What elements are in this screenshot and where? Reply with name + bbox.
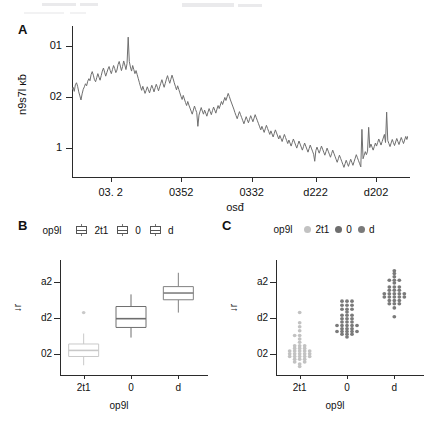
dotplot-point: [392, 289, 396, 293]
dotplot-point: [350, 317, 354, 321]
dotplot-point: [350, 307, 354, 311]
panel-c-legend: op9l 2t1 0 d: [216, 224, 432, 235]
dotplot-point: [345, 317, 349, 321]
dotplot-point: [340, 324, 344, 328]
panel-b-y-tick-label: 02: [24, 348, 52, 359]
dotplot-point: [345, 299, 349, 303]
dotplot-point: [350, 303, 354, 307]
dotplot-point: [298, 362, 302, 366]
dotplot-point: [293, 334, 297, 338]
panel-c-legend-label: 0: [346, 224, 352, 235]
panel-c-x-tick: [300, 375, 301, 379]
panel-b-x-tick-label: 2t1: [62, 382, 106, 393]
dotplot-point: [392, 299, 396, 303]
dotplot-point: [397, 289, 401, 293]
dotplot-point: [397, 285, 401, 289]
dotplot-point: [397, 278, 401, 282]
panel-b: B op9l 2t1 0 d: [0, 212, 216, 421]
panel-c-legend-item-d[interactable]: d: [358, 224, 375, 235]
panel-b-x-tick-label: 0: [109, 382, 153, 393]
panel-c-x-axis-title-text: op9l: [326, 400, 345, 411]
dotplot-point: [387, 299, 391, 303]
dotplot-point: [340, 307, 344, 311]
panel-b-legend-label: 0: [135, 225, 141, 236]
dotplot-point: [392, 295, 396, 299]
dotplot-point: [340, 314, 344, 318]
panel-c-legend-item-2t1[interactable]: 2t1: [304, 224, 329, 235]
dotplot-point: [387, 302, 391, 306]
panel-c-y-tick-label: d2: [240, 312, 268, 323]
dotplot-point: [355, 324, 359, 328]
boxplot-glyph-icon: [114, 224, 131, 236]
dotplot-point: [345, 320, 349, 324]
panel-a: A n9s7l ĸƀ 01021 03. 203520332d222d202 o…: [0, 14, 432, 210]
panel-a-line-path: [72, 37, 408, 167]
dotplot-point: [392, 302, 396, 306]
dotplot-point: [345, 307, 349, 311]
dot-glyph-icon: [335, 226, 342, 233]
dotplot-point: [392, 306, 396, 310]
scan-artifact: [42, 3, 76, 6]
dotplot-point: [293, 344, 297, 348]
dotplot-point: [387, 292, 391, 296]
panel-c-legend-item-0[interactable]: 0: [335, 224, 352, 235]
dotplot-point: [387, 295, 391, 299]
panel-b-x-axis: [60, 375, 208, 376]
panel-a-x-tick-label: 03. 2: [81, 186, 141, 198]
panel-a-y-axis-title: n9s7l ĸƀ: [16, 74, 28, 115]
panel-b-boxplots: [60, 264, 202, 372]
panel-c: C op9l 2t1 0 d ↓r a2d202 2t10d op9l: [216, 212, 432, 421]
panel-b-legend-item-d[interactable]: d: [147, 224, 174, 236]
panel-b-legend-label: 2t1: [94, 225, 108, 236]
panel-b-legend-title: op9l: [43, 225, 62, 236]
panel-b-x-axis-title-text: op9l: [110, 400, 129, 411]
dotplot-point: [392, 269, 396, 273]
panel-a-x-tick-label: d222: [286, 186, 346, 198]
dotplot-point: [340, 303, 344, 307]
dotplot-point: [350, 327, 354, 331]
boxplot-glyph-icon: [147, 224, 164, 236]
panel-b-y-tick-label: a2: [24, 276, 52, 287]
panel-a-y-tick-label: 02: [30, 90, 62, 102]
dotplot-point: [397, 292, 401, 296]
panel-c-y-tick-label: a2: [240, 276, 268, 287]
panel-a-y-tick-label: 01: [30, 39, 62, 51]
panel-b-x-tick-label: d: [156, 382, 200, 393]
dotplot-point: [298, 337, 302, 341]
dotplot-point: [350, 320, 354, 324]
dotplot-point: [350, 299, 354, 303]
panel-c-legend-label: d: [369, 224, 375, 235]
dotplot-point: [335, 324, 339, 328]
dotplot-point: [288, 349, 292, 353]
panel-b-legend-item-2t1[interactable]: 2t1: [73, 224, 108, 236]
dotplot-point: [392, 315, 396, 319]
panel-b-x-tick: [178, 375, 179, 379]
panel-b-y-tick-label: d2: [24, 312, 52, 323]
dotplot-point: [350, 314, 354, 318]
boxplot-box: [116, 307, 146, 328]
dotplot-point: [298, 325, 302, 329]
panel-c-x-tick: [394, 375, 395, 379]
panel-c-x-tick-label: d: [372, 382, 416, 393]
panel-c-x-axis: [276, 375, 424, 376]
dotplot-point: [387, 278, 391, 282]
panel-b-legend-item-0[interactable]: 0: [114, 224, 141, 236]
panel-a-x-tick-label: d202: [346, 186, 406, 198]
panel-c-legend-title: op9l: [274, 224, 293, 235]
dotplot-point: [340, 327, 344, 331]
dotplot-point: [345, 324, 349, 328]
dotplot-point: [345, 314, 349, 318]
boxplot-outlier-point: [82, 311, 86, 314]
dotplot-point: [298, 341, 302, 345]
boxplot-glyph-icon: [73, 224, 90, 236]
panel-c-x-tick-label: 2t1: [278, 382, 322, 393]
dotplot-point: [387, 285, 391, 289]
dotplot-point: [345, 327, 349, 331]
dotplot-point: [382, 292, 386, 296]
panel-b-x-axis-title: op9l: [0, 400, 216, 411]
scan-artifact: [80, 3, 98, 6]
panel-a-y-tick-label: 1: [30, 141, 62, 153]
dotplot-point: [392, 275, 396, 279]
dotplot-point: [298, 344, 302, 348]
dotplot-point: [298, 311, 302, 315]
